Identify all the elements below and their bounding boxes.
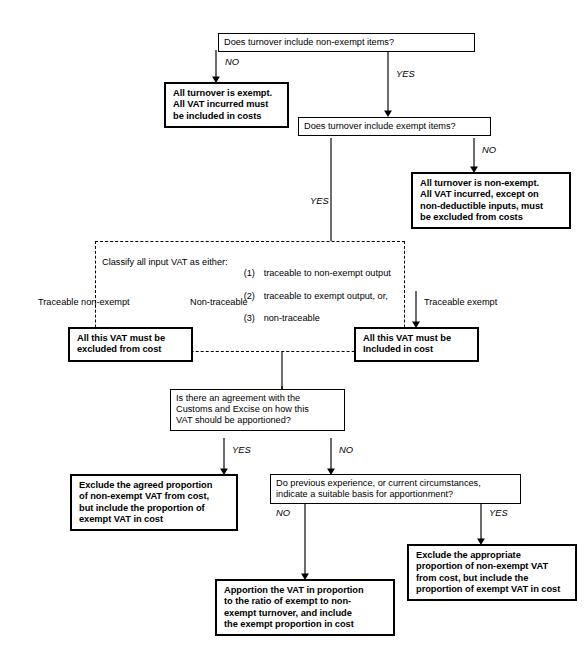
edge-label-no-3: NO [339,444,353,455]
classify-option: (3) non-traceable [244,313,391,324]
classify-option-label: traceable to non-exempt output [264,268,391,279]
edge-label-yes-3: YES [232,444,251,455]
edge-label-yes-1: YES [396,68,415,79]
edge-label-no-4: NO [276,507,290,518]
decision-agreement-with-customs[interactable]: Is there an agreement with the Customs a… [170,389,345,431]
edge-label-yes-4: YES [489,507,508,518]
action-vat-included-in-cost[interactable]: All this VAT must be Included in cost [354,327,479,362]
edge-label-no-1: NO [225,56,239,67]
branch-label-traceable-exempt: Traceable exempt [424,297,497,307]
edge-label-no-2: NO [482,144,496,155]
decision-previous-experience-basis[interactable]: Do previous experience, or current circu… [270,474,521,504]
action-vat-excluded-from-cost[interactable]: All this VAT must be excluded from cost [68,327,193,362]
edge-label-yes-2: YES [310,195,329,206]
decision-turnover-includes-exempt[interactable]: Does turnover include exempt items? [298,117,491,136]
decision-turnover-includes-non-exempt[interactable]: Does turnover include non-exempt items? [218,33,475,52]
action-all-turnover-non-exempt[interactable]: All turnover is non-exempt. All VAT incu… [411,172,571,229]
action-exclude-appropriate-proportion[interactable]: Exclude the appropriate proportion of no… [407,544,577,601]
classify-option-number: (1) [244,268,264,279]
branch-label-traceable-non-exempt: Traceable non-exempt [38,297,130,307]
classify-option: (2) traceable to exempt output, or, [244,291,391,302]
action-all-turnover-exempt[interactable]: All turnover is exempt. All VAT incurred… [164,82,289,128]
classify-lead-text: Classify all input VAT as either: [102,257,244,268]
classify-options-list: (1) traceable to non-exempt output (2) t… [244,257,391,336]
action-apportion-vat[interactable]: Apportion the VAT in proportion to the r… [215,579,395,636]
flowchart-canvas: Does turnover include non-exempt items? … [0,0,586,652]
classify-option-number: (3) [244,313,264,324]
classify-option-label: traceable to exempt output, or, [264,291,388,302]
branch-label-non-traceable: Non-traceable [190,297,248,307]
action-exclude-agreed-proportion[interactable]: Exclude the agreed proportion of non-exe… [70,474,238,531]
classify-option-label: non-traceable [264,313,320,324]
classify-option: (1) traceable to non-exempt output [244,268,391,279]
